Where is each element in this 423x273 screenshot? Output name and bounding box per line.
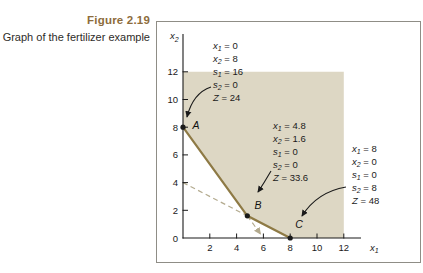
solution-line: s1 = 0 [273,145,308,158]
x-axis-label: x1 [369,242,379,255]
solution-line: s1 = 16 [213,65,243,78]
y-tick-label: 12 [167,66,178,77]
x-tick-label: 2 [207,242,212,253]
solution-line: s2 = 0 [273,158,308,171]
y-tick-label: 8 [173,122,178,133]
corner-point-C [288,235,293,240]
solution-line: x1 = 0 [213,39,243,52]
y-tick-label: 10 [167,94,178,105]
solution-line: Z = 33.6 [273,171,308,184]
solution-line: x1 = 8 [352,142,379,155]
y-tick-label: 0 [173,233,178,244]
y-tick-label: 6 [173,149,178,160]
figure-caption: Graph of the fertilizer example [3,31,150,43]
solution-line: x2 = 8 [213,52,243,65]
x-tick-label: 4 [234,242,239,253]
x-tick-label: 12 [339,242,350,253]
x-tick-label: 10 [312,242,323,253]
solution-line: s2 = 8 [352,181,379,194]
figure-label: Figure 2.19 [3,14,150,26]
textbook-figure-page: Figure 2.19 Graph of the fertilizer exam… [0,0,423,273]
feasible-region [183,72,344,238]
y-tick-label: 2 [173,205,178,216]
solution-line: x2 = 1.6 [273,132,308,145]
y-tick-label: 4 [173,177,178,188]
solution-line: s2 = 0 [213,78,243,91]
solution-line: s1 = 0 [352,168,379,181]
y-axis-label: x2 [169,30,179,43]
solution-annotation-C: x1 = 8x2 = 0s1 = 0s2 = 8Z = 48 [352,142,379,207]
corner-point-label-B: B [254,199,261,211]
solution-line: x2 = 0 [352,155,379,168]
x-tick-label: 6 [261,242,266,253]
solution-line: Z = 48 [352,194,379,207]
x-tick-label: 8 [288,242,293,253]
corner-point-label-A: A [191,119,199,131]
corner-point-label-C: C [295,218,303,230]
graph-panel: 24681012024681012x1x2ABCx1 = 0x2 = 8s1 =… [156,21,421,263]
corner-point-A [180,125,185,130]
corner-point-B [245,213,250,218]
figure-caption-block: Figure 2.19 Graph of the fertilizer exam… [3,14,150,43]
solution-line: x1 = 4.8 [273,119,308,132]
solution-annotation-A: x1 = 0x2 = 8s1 = 16s2 = 0Z = 24 [213,39,243,104]
solution-line: Z = 24 [213,91,243,104]
solution-annotation-B: x1 = 4.8x2 = 1.6s1 = 0s2 = 0Z = 33.6 [273,119,308,184]
